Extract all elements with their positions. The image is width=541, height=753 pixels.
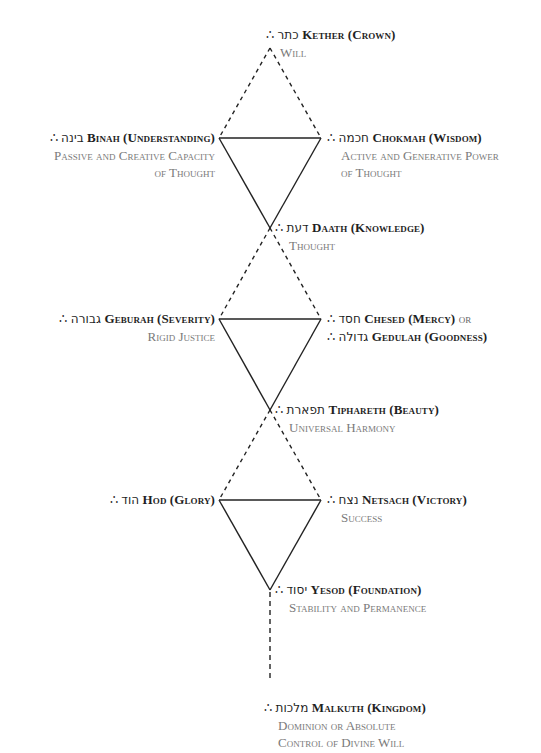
node-kether: ∴ כתר Kether (Crown) Will — [266, 26, 395, 61]
binah-heading: ∴ בינה Binah (Understanding) — [50, 129, 215, 147]
therefore-icon: ∴ — [110, 492, 118, 507]
connector-netsach-yesod — [270, 500, 321, 590]
daath-heading: ∴ דעת Daath (Knowledge) — [275, 219, 425, 237]
yesod-heading: ∴ יסוד Yesod (Foundation) — [275, 581, 426, 599]
node-hod: ∴ הוד Hod (Glory) — [110, 491, 215, 509]
malkuth-name: Malkuth (Kingdom) — [312, 700, 426, 715]
hod-heading: ∴ הוד Hod (Glory) — [110, 491, 215, 509]
chesed-heading: ∴ חסד Chesed (Mercy) or — [327, 310, 487, 328]
node-daath: ∴ דעת Daath (Knowledge) Thought — [275, 219, 425, 254]
therefore-icon: ∴ — [264, 700, 272, 715]
connector-chesed-tiphareth — [270, 319, 321, 410]
sephiroth-diagram — [0, 0, 541, 753]
node-geburah: ∴ גבורה Geburah (Severity) Rigid Justice — [59, 310, 215, 345]
chokmah-hebrew: חכמה — [338, 131, 369, 145]
connector-daath-geburah — [219, 228, 270, 319]
node-chesed: ∴ חסד Chesed (Mercy) or ∴ גדולה Gedulah … — [327, 310, 487, 346]
therefore-icon: ∴ — [275, 220, 283, 235]
node-malkuth: ∴ מלכות Malkuth (Kingdom) Dominion or Ab… — [264, 699, 426, 751]
therefore-icon: ∴ — [266, 27, 274, 42]
yesod-desc: Stability and Permanence — [275, 599, 426, 616]
yesod-hebrew: יסוד — [286, 583, 307, 597]
kether-heading: ∴ כתר Kether (Crown) — [266, 26, 395, 44]
therefore-icon: ∴ — [50, 130, 58, 145]
connector-kether-binah — [219, 48, 270, 138]
daath-desc: Thought — [275, 237, 425, 254]
kether-hebrew: כתר — [277, 28, 298, 42]
connector-hod-yesod — [219, 500, 270, 590]
tiphareth-desc: Universal Harmony — [275, 419, 439, 436]
hod-name: Hod (Glory) — [143, 492, 215, 507]
therefore-icon: ∴ — [59, 311, 67, 326]
yesod-name: Yesod (Foundation) — [311, 582, 422, 597]
chesed-hebrew: חסד — [338, 312, 360, 326]
connector-kether-chokmah — [270, 48, 321, 138]
chesed-or: or — [459, 311, 472, 326]
chesed-name: Chesed (Mercy) — [364, 311, 455, 326]
kether-desc: Will — [266, 44, 395, 61]
node-yesod: ∴ יסוד Yesod (Foundation) Stability and … — [275, 581, 426, 616]
binah-name: Binah (Understanding) — [87, 130, 215, 145]
netsach-heading: ∴ נצח Netsach (Victory) — [327, 491, 467, 509]
malkuth-desc-line-2: Control of Divine Will — [264, 734, 426, 751]
therefore-icon: ∴ — [327, 329, 335, 344]
geburah-name: Geburah (Severity) — [104, 311, 215, 326]
chokmah-name: Chokmah (Wisdom) — [372, 130, 481, 145]
therefore-icon: ∴ — [327, 492, 335, 507]
tiphareth-hebrew: תפארת — [286, 403, 325, 417]
therefore-icon: ∴ — [275, 582, 283, 597]
node-netsach: ∴ נצח Netsach (Victory) Success — [327, 491, 467, 526]
therefore-icon: ∴ — [327, 311, 335, 326]
malkuth-desc-line-1: Dominion or Absolute — [264, 717, 426, 734]
connector-tiphareth-hod — [219, 410, 270, 500]
therefore-icon: ∴ — [327, 130, 335, 145]
tiphareth-name: Tiphareth (Beauty) — [328, 402, 439, 417]
netsach-name: Netsach (Victory) — [362, 492, 467, 507]
hod-hebrew: הוד — [121, 493, 139, 507]
tiphareth-heading: ∴ תפארת Tiphareth (Beauty) — [275, 401, 439, 419]
kether-name: Kether (Crown) — [302, 27, 395, 42]
chokmah-heading: ∴ חכמה Chokmah (Wisdom) — [327, 129, 499, 147]
chokmah-desc-line-1: Active and Generative Power — [327, 147, 499, 164]
therefore-icon: ∴ — [275, 402, 283, 417]
binah-hebrew: בינה — [61, 131, 84, 145]
geburah-heading: ∴ גבורה Geburah (Severity) — [59, 310, 215, 328]
malkuth-hebrew: מלכות — [275, 701, 308, 715]
node-binah: ∴ בינה Binah (Understanding) Passive and… — [50, 129, 215, 181]
daath-hebrew: דעת — [286, 221, 308, 235]
gedulah-heading: ∴ גדולה Gedulah (Goodness) — [327, 328, 487, 346]
connector-geburah-tiphareth — [219, 319, 270, 410]
chokmah-desc-line-2: of Thought — [327, 164, 499, 181]
connector-binah-daath — [219, 138, 270, 228]
binah-desc-line-2: of Thought — [50, 164, 215, 181]
binah-desc-line-1: Passive and Creative Capacity — [50, 147, 215, 164]
malkuth-heading: ∴ מלכות Malkuth (Kingdom) — [264, 699, 426, 717]
daath-name: Daath (Knowledge) — [312, 220, 424, 235]
gedulah-hebrew: גדולה — [338, 330, 368, 344]
geburah-desc: Rigid Justice — [59, 328, 215, 345]
geburah-hebrew: גבורה — [71, 312, 101, 326]
netsach-desc: Success — [327, 509, 467, 526]
node-chokmah: ∴ חכמה Chokmah (Wisdom) Active and Gener… — [327, 129, 499, 181]
node-tiphareth: ∴ תפארת Tiphareth (Beauty) Universal Har… — [275, 401, 439, 436]
gedulah-name: Gedulah (Goodness) — [372, 329, 487, 344]
netsach-hebrew: נצח — [338, 493, 358, 507]
connector-chokmah-daath — [270, 138, 321, 228]
